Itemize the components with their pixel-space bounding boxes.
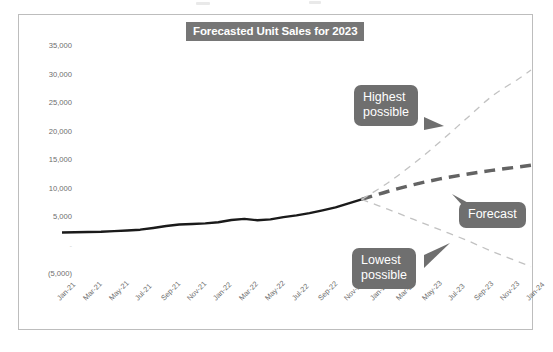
chart-container: Forecasted Unit Sales for 2023 35,00030,… [0,0,553,352]
annotation-lowest-possible-box: Lowest possible [352,248,416,289]
annotation-highest-possible-box: Highest possible [354,85,418,126]
plot-area [0,0,553,352]
series-line-forecast [362,165,531,199]
annotation-lowest-line1: Lowest [361,253,401,267]
annotation-highest-line1: Highest [363,90,405,104]
annotation-forecast-line1: Forecast [468,207,517,221]
annotation-lowest-line2: possible [361,268,407,282]
annotation-highest-tail [424,117,444,130]
annotation-forecast-box: Forecast [459,202,526,228]
annotation-highest-line2: possible [363,105,409,119]
annotation-lowest-tail [424,243,450,268]
series-line-actual [62,199,362,232]
